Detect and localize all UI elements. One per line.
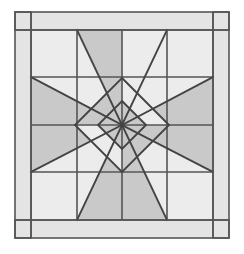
quilt-block-figure (0, 0, 244, 254)
quilt-block-diagram (0, 0, 244, 254)
